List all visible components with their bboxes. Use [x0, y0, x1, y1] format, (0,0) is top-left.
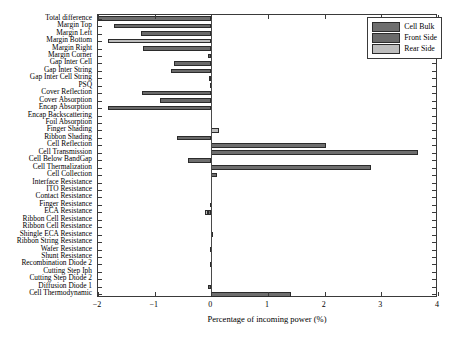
bar [211, 165, 370, 170]
y-tick [432, 78, 436, 79]
legend-swatch [372, 33, 400, 43]
y-tick [432, 220, 436, 221]
bar-row [98, 277, 436, 282]
y-tick [98, 138, 102, 139]
y-tick [98, 264, 102, 265]
y-tick [432, 93, 436, 94]
legend-item[interactable]: Rear Side [372, 44, 437, 54]
y-tick [98, 78, 102, 79]
y-tick [432, 272, 436, 273]
y-tick [98, 183, 102, 184]
legend-label: Front Side [404, 34, 437, 42]
x-tick [325, 292, 326, 296]
y-tick [98, 145, 102, 146]
y-tick [98, 205, 102, 206]
y-tick [98, 153, 102, 154]
y-tick [432, 86, 436, 87]
chart-legend: Cell BulkFront SideRear Side [367, 17, 442, 59]
bar-row [98, 180, 436, 185]
y-tick [432, 227, 436, 228]
y-tick [98, 71, 102, 72]
y-axis-label: Cell Thermodynamic [29, 290, 92, 297]
bar-row [98, 203, 436, 208]
y-tick [432, 63, 436, 64]
bar-row [98, 270, 436, 275]
bar [211, 292, 290, 297]
bar-row [98, 128, 436, 133]
bar [114, 24, 211, 29]
y-tick [98, 190, 102, 191]
y-tick [432, 257, 436, 258]
y-tick [432, 160, 436, 161]
y-tick [432, 250, 436, 251]
bar [188, 158, 211, 163]
y-tick [432, 212, 436, 213]
bar [141, 31, 211, 36]
bar-row [98, 121, 436, 126]
y-tick [98, 93, 102, 94]
y-tick [98, 86, 102, 87]
x-tick [268, 15, 269, 19]
y-tick [432, 116, 436, 117]
y-tick [98, 123, 102, 124]
bar-row [98, 143, 436, 148]
x-tick-label: 1 [265, 300, 269, 309]
bar [177, 136, 211, 141]
x-tick [211, 15, 212, 19]
y-tick [98, 56, 102, 57]
y-tick [98, 197, 102, 198]
x-tick [98, 15, 99, 19]
y-tick [432, 183, 436, 184]
x-axis-title: Percentage of incoming power (%) [97, 314, 437, 324]
y-tick [98, 257, 102, 258]
y-tick [98, 279, 102, 280]
y-tick [98, 235, 102, 236]
bar [211, 150, 418, 155]
y-tick [432, 175, 436, 176]
legend-item[interactable]: Front Side [372, 33, 437, 43]
y-tick [432, 205, 436, 206]
bar [143, 46, 211, 51]
x-tick-label: 2 [322, 300, 326, 309]
y-tick [98, 220, 102, 221]
bar-row [98, 217, 436, 222]
x-tick [268, 292, 269, 296]
bar-row [98, 158, 436, 163]
y-tick [98, 101, 102, 102]
bar-row [98, 232, 436, 237]
bar [108, 39, 212, 44]
x-tick-label: 4 [435, 300, 439, 309]
legend-item[interactable]: Cell Bulk [372, 22, 437, 32]
bar [211, 143, 326, 148]
bar [108, 106, 212, 111]
y-tick [98, 108, 102, 109]
bar-row [98, 76, 436, 81]
y-tick [432, 279, 436, 280]
bar-row [98, 61, 436, 66]
legend-swatch [372, 22, 400, 32]
bar-row [98, 136, 436, 141]
y-tick [98, 34, 102, 35]
bar [174, 61, 211, 66]
x-tick [325, 15, 326, 19]
bar-row [98, 225, 436, 230]
bar-row [98, 83, 436, 88]
y-tick [432, 242, 436, 243]
bar-row [98, 262, 436, 267]
y-tick [98, 160, 102, 161]
y-tick [432, 71, 436, 72]
y-tick [432, 168, 436, 169]
y-tick [98, 49, 102, 50]
y-tick [98, 212, 102, 213]
x-tick [211, 292, 212, 296]
y-tick [432, 101, 436, 102]
bar [160, 98, 211, 103]
bar-row [98, 165, 436, 170]
y-axis-category-labels: Total differenceMargin TopMargin LeftMar… [0, 14, 95, 297]
bar-row [98, 292, 436, 297]
y-tick [98, 287, 102, 288]
legend-swatch [372, 44, 400, 54]
y-tick [98, 175, 102, 176]
bar-row [98, 195, 436, 200]
bar-row [98, 91, 436, 96]
